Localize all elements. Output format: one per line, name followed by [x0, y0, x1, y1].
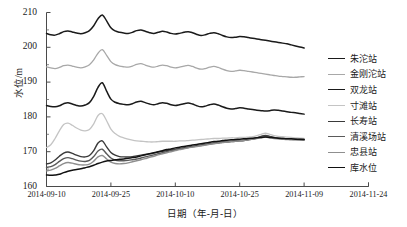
legend-item[interactable]: 寸滩站 — [328, 98, 386, 114]
legend-item[interactable]: 忠县站 — [328, 145, 386, 161]
legend-swatch-line — [328, 89, 345, 90]
series-line-3 — [47, 113, 305, 147]
legend-label: 朱沱站 — [350, 54, 377, 64]
series-line-2 — [47, 83, 305, 114]
legend-swatch-line — [328, 105, 345, 106]
y-tick-label: 190 — [11, 76, 37, 86]
legend-swatch-line — [328, 167, 345, 168]
legend-label: 清溪场站 — [350, 132, 386, 142]
chart-legend: 朱沱站金刚沱站双龙站寸滩站长寿站清溪场站忠县站库水位 — [328, 51, 386, 176]
x-tick-label: 2014-11-09 — [269, 190, 339, 199]
legend-label: 库水位 — [350, 163, 377, 173]
y-tick-label: 180 — [11, 111, 37, 121]
series-line-1 — [47, 50, 305, 78]
legend-swatch-line — [328, 136, 345, 137]
x-axis-title: 日期（年-月-日） — [95, 206, 315, 220]
legend-label: 长寿站 — [350, 116, 377, 126]
legend-label: 金刚沱站 — [350, 69, 386, 79]
legend-item[interactable]: 长寿站 — [328, 113, 386, 129]
y-tick-label: 170 — [11, 146, 37, 156]
x-tick-label: 2014-10-25 — [205, 190, 275, 199]
chart-figure: 水位/m 日期（年-月-日） 160170180190200210 2014-0… — [0, 0, 407, 227]
legend-item[interactable]: 清溪场站 — [328, 129, 386, 145]
series-line-6 — [47, 137, 305, 171]
legend-label: 忠县站 — [350, 147, 377, 157]
legend-item[interactable]: 双龙站 — [328, 82, 386, 98]
x-tick-label: 2014-09-10 — [12, 190, 82, 199]
legend-swatch-line — [328, 152, 345, 153]
legend-label: 双龙站 — [350, 85, 377, 95]
legend-swatch-line — [328, 74, 345, 75]
x-tick-label: 2014-10-10 — [140, 190, 210, 199]
legend-item[interactable]: 金刚沱站 — [328, 67, 386, 83]
y-tick-label: 210 — [11, 7, 37, 17]
legend-swatch-line — [328, 58, 345, 59]
series-line-0 — [47, 15, 305, 48]
legend-swatch-line — [328, 121, 345, 122]
x-tick-label: 2014-09-25 — [76, 190, 146, 199]
legend-item[interactable]: 库水位 — [328, 160, 386, 176]
x-tick-label: 2014-11-24 — [334, 190, 404, 199]
y-tick-label: 200 — [11, 41, 37, 51]
legend-item[interactable]: 朱沱站 — [328, 51, 386, 67]
legend-label: 寸滩站 — [350, 101, 377, 111]
